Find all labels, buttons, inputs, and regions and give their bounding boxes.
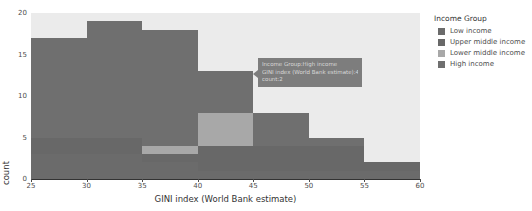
legend-item[interactable]: Low income <box>434 26 530 36</box>
plot-area <box>31 13 420 179</box>
x-tick-label: 30 <box>82 182 91 190</box>
bar-segment[interactable] <box>198 171 254 179</box>
legend-swatch <box>438 28 445 35</box>
bar-segment[interactable] <box>87 21 143 137</box>
legend: Income Group Low incomeUpper middle inco… <box>434 14 530 70</box>
bar-column[interactable] <box>198 13 254 179</box>
legend-item[interactable]: High income <box>434 59 530 69</box>
tooltip-pointer <box>253 70 258 78</box>
y-tick-label: 15 <box>11 51 27 59</box>
bar-segment[interactable] <box>253 146 309 171</box>
y-tick-label: 20 <box>11 9 27 17</box>
bar-segment[interactable] <box>142 30 198 146</box>
tooltip-line-count: count:2 <box>262 76 358 84</box>
bar-segment[interactable] <box>198 146 254 171</box>
legend-item-label: Lower middle income <box>450 49 525 57</box>
tooltip-line-gini: GINI index (World Bank estimate):40 - 44… <box>262 69 358 77</box>
tooltip-line-group: Income Group:High income <box>262 61 358 69</box>
x-tick-label: 55 <box>360 182 369 190</box>
legend-item-label: Low income <box>450 27 492 35</box>
legend-item-label: High income <box>450 60 494 68</box>
bar-segment[interactable] <box>364 162 420 170</box>
bar-column[interactable] <box>309 13 365 179</box>
legend-item-label: Upper middle income <box>450 38 525 46</box>
bar-segment[interactable] <box>31 154 87 179</box>
y-axis-title: count <box>1 153 11 193</box>
x-tick-label: 25 <box>27 182 36 190</box>
legend-title: Income Group <box>434 14 530 23</box>
stacked-bars-layer <box>31 13 420 179</box>
bar-segment[interactable] <box>309 171 365 179</box>
bar-column[interactable] <box>253 13 309 179</box>
x-tick-label: 35 <box>138 182 147 190</box>
bar-segment[interactable] <box>198 113 254 146</box>
x-axis-title: GINI index (World Bank estimate) <box>31 194 420 204</box>
tooltip: Income Group:High income GINI index (Wor… <box>258 58 362 87</box>
legend-swatch <box>438 50 445 57</box>
legend-items: Low incomeUpper middle incomeLower middl… <box>434 26 530 69</box>
x-axis-line <box>31 179 420 180</box>
bar-segment[interactable] <box>142 146 198 154</box>
x-tick-label: 60 <box>416 182 425 190</box>
legend-item[interactable]: Upper middle income <box>434 37 530 47</box>
bar-segment[interactable] <box>364 171 420 179</box>
histogram-chart: 2530354045505560 05101520 GINI index (Wo… <box>0 0 532 211</box>
x-tick-label: 45 <box>249 182 258 190</box>
bar-column[interactable] <box>142 13 198 179</box>
bar-column[interactable] <box>364 13 420 179</box>
legend-swatch <box>438 61 445 68</box>
legend-item[interactable]: Lower middle income <box>434 48 530 58</box>
y-tick-label: 0 <box>11 175 27 183</box>
bar-segment[interactable] <box>309 138 365 146</box>
bar-column[interactable] <box>31 13 87 179</box>
bar-segment[interactable] <box>87 138 143 155</box>
legend-swatch <box>438 39 445 46</box>
bar-segment[interactable] <box>253 171 309 179</box>
bar-segment[interactable] <box>142 162 198 179</box>
x-tick-label: 50 <box>304 182 313 190</box>
x-tick-label: 40 <box>193 182 202 190</box>
bar-segment[interactable] <box>253 113 309 146</box>
bar-segment[interactable] <box>309 146 365 171</box>
bar-column[interactable] <box>87 13 143 179</box>
bar-segment[interactable] <box>87 154 143 179</box>
bar-segment[interactable] <box>142 154 198 162</box>
bar-segment[interactable] <box>31 138 87 155</box>
bar-segment[interactable] <box>198 71 254 113</box>
bar-segment[interactable] <box>31 38 87 138</box>
y-tick-label: 5 <box>11 134 27 142</box>
